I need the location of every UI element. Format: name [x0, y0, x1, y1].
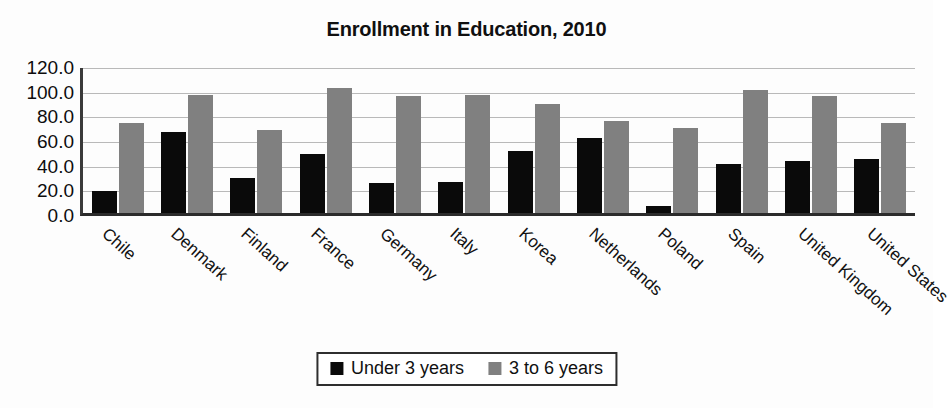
bar-group — [638, 68, 707, 213]
y-axis-tick-label: 120.0 — [6, 57, 74, 79]
y-axis-tick-label: 60.0 — [6, 131, 74, 153]
bar-group — [83, 68, 152, 213]
y-axis-tick-label: 80.0 — [6, 106, 74, 128]
bar[interactable] — [369, 183, 394, 213]
x-axis-label-finland: Finland — [237, 224, 292, 276]
plot-area — [80, 68, 915, 216]
bar[interactable] — [300, 154, 325, 213]
x-label-slot: Korea — [497, 220, 567, 330]
x-label-slot: Poland — [637, 220, 707, 330]
legend-swatch-icon — [330, 362, 343, 375]
bar-group — [846, 68, 915, 213]
bar-group — [222, 68, 291, 213]
y-axis-tick-label: 0.0 — [6, 205, 74, 227]
bar-group — [499, 68, 568, 213]
bar[interactable] — [92, 191, 117, 213]
bar-group — [291, 68, 360, 213]
bar-group — [152, 68, 221, 213]
x-axis-category-labels: ChileDenmarkFinlandFranceGermanyItalyKor… — [80, 220, 915, 330]
x-axis-label-spain: Spain — [724, 224, 770, 268]
chart-legend: Under 3 years3 to 6 years — [316, 352, 617, 386]
x-label-slot: Italy — [428, 220, 498, 330]
bar[interactable] — [508, 151, 533, 213]
bar[interactable] — [604, 121, 629, 214]
bars-layer — [83, 68, 915, 213]
bar-group — [430, 68, 499, 213]
bar[interactable] — [785, 161, 810, 213]
x-label-slot: Chile — [80, 220, 150, 330]
bar-group — [360, 68, 429, 213]
x-axis-label-chile: Chile — [97, 224, 139, 265]
bar[interactable] — [743, 90, 768, 213]
bar[interactable] — [119, 123, 144, 213]
x-label-slot: United Kingdom — [776, 220, 846, 330]
bar[interactable] — [396, 96, 421, 213]
y-axis-tick-label: 20.0 — [6, 180, 74, 202]
x-label-slot: Netherlands — [567, 220, 637, 330]
x-label-slot: France — [289, 220, 359, 330]
bar[interactable] — [881, 123, 906, 213]
x-axis-label-korea: Korea — [515, 224, 562, 269]
x-axis-label-italy: Italy — [445, 224, 482, 260]
x-label-slot: Denmark — [150, 220, 220, 330]
x-label-slot: Germany — [358, 220, 428, 330]
bar[interactable] — [230, 178, 255, 213]
bar[interactable] — [646, 206, 671, 213]
legend-entry[interactable]: Under 3 years — [330, 358, 464, 379]
bar[interactable] — [188, 95, 213, 213]
x-axis-label-united-states: United States — [863, 224, 951, 307]
bar[interactable] — [535, 104, 560, 213]
bar[interactable] — [812, 96, 837, 213]
bar-group — [776, 68, 845, 213]
y-axis-tick-labels: 120.0100.080.060.040.020.00.0 — [6, 58, 74, 218]
legend-label: 3 to 6 years — [509, 358, 603, 379]
bar[interactable] — [327, 88, 352, 213]
bar-group — [568, 68, 637, 213]
x-label-slot: United States — [845, 220, 915, 330]
legend-entry[interactable]: 3 to 6 years — [488, 358, 603, 379]
bar-group — [707, 68, 776, 213]
bar[interactable] — [716, 164, 741, 213]
bar[interactable] — [257, 130, 282, 213]
legend-label: Under 3 years — [351, 358, 464, 379]
x-axis-label-france: France — [306, 224, 359, 274]
x-label-slot: Spain — [706, 220, 776, 330]
x-label-slot: Finland — [219, 220, 289, 330]
y-axis-tick-label: 40.0 — [6, 156, 74, 178]
bar[interactable] — [465, 95, 490, 213]
bar[interactable] — [577, 138, 602, 213]
bar[interactable] — [161, 132, 186, 213]
legend-swatch-icon — [488, 362, 501, 375]
bar[interactable] — [438, 182, 463, 213]
bar[interactable] — [854, 159, 879, 213]
bar[interactable] — [673, 128, 698, 213]
y-axis-tick-label: 100.0 — [6, 82, 74, 104]
x-axis-label-poland: Poland — [654, 224, 707, 274]
